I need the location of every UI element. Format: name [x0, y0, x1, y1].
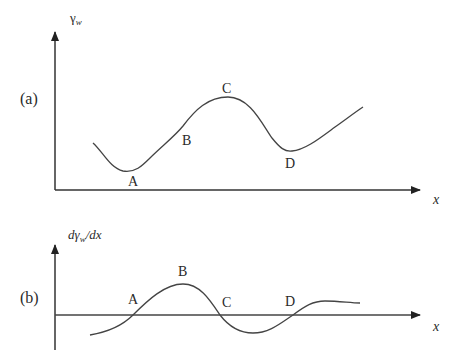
point-label-a-A: A: [128, 174, 139, 189]
panel-b-x-label: x: [432, 319, 440, 334]
point-label-b-C: C: [222, 295, 231, 310]
panel-b-tag: (b): [20, 289, 39, 307]
panel-a-curve: [93, 97, 363, 171]
point-label-a-D: D: [285, 156, 295, 171]
panel-a: (a) γw x A B C D: [20, 10, 440, 207]
panel-a-y-label: γw: [69, 10, 82, 27]
point-label-b-A: A: [128, 292, 139, 307]
panel-a-x-label: x: [432, 192, 440, 207]
panel-b-y-label: dγw/dx: [68, 227, 102, 244]
point-label-b-D: D: [285, 294, 295, 309]
diagram-canvas: (a) γw x A B C D (b) dγw/dx x A B C D: [0, 0, 460, 360]
point-label-a-B: B: [182, 133, 191, 148]
panel-b: (b) dγw/dx x A B C D: [20, 227, 440, 350]
point-label-b-B: B: [178, 264, 187, 279]
panel-a-tag: (a): [20, 90, 38, 108]
point-label-a-C: C: [222, 81, 231, 96]
